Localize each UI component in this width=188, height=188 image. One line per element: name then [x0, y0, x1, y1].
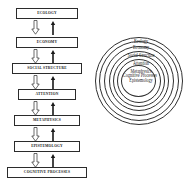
up-arrow-icon — [50, 76, 56, 90]
flow-box-cognitive-processes: COGNITIVE PROCESSES — [7, 167, 87, 178]
flow-box-label: ATTENTION — [36, 92, 59, 97]
up-arrow-icon — [50, 21, 56, 35]
flow-box-epistemology: EPISTEMOLOGY — [14, 141, 80, 152]
flow-box-social-structure: SOCIAL STRUCTURE — [12, 63, 82, 74]
down-arrow-icon — [31, 153, 40, 168]
up-arrow-icon — [50, 128, 56, 142]
up-arrow-icon — [50, 154, 56, 168]
flow-box-attention: ATTENTION — [18, 89, 76, 100]
up-arrow-icon — [50, 102, 56, 116]
flow-box-label: ECOLOGY — [37, 11, 57, 16]
flow-box-metaphysics: METAPHYSICS — [14, 115, 80, 126]
down-arrow-icon — [31, 127, 40, 142]
down-arrow-icon — [31, 101, 40, 116]
flow-box-economy: ECONOMY — [16, 37, 78, 48]
flowchart-panel: ECOLOGY ECONOMY — [0, 0, 94, 188]
diagram-canvas: ECOLOGY ECONOMY — [0, 0, 188, 188]
flow-box-label: EPISTEMOLOGY — [31, 144, 63, 149]
flow-box-label: SOCIAL STRUCTURE — [27, 66, 67, 71]
flow-box-label: ECONOMY — [37, 40, 57, 45]
concentric-circles-panel: Ecology Economy Social Structure Attenti… — [94, 0, 188, 188]
down-arrow-icon — [31, 49, 40, 64]
ring-label-cognitive-processes: Cognitive Processes — [122, 73, 158, 79]
down-arrow-icon — [31, 75, 40, 90]
flow-box-label: METAPHYSICS — [33, 118, 61, 123]
ring-cognitive-processes — [121, 65, 156, 97]
up-arrow-icon — [50, 50, 56, 64]
down-arrow-icon — [31, 20, 40, 35]
flow-box-ecology: ECOLOGY — [16, 8, 78, 19]
flow-box-label: COGNITIVE PROCESSES — [24, 170, 70, 175]
